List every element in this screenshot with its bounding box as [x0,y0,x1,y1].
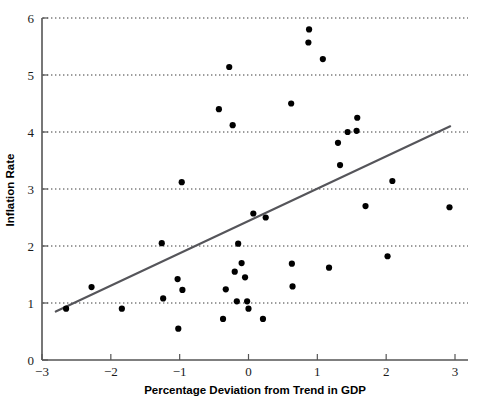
data-point-23 [263,214,269,220]
x-axis-title: Percentage Deviation from Trend in GDP [144,384,366,396]
data-point-32 [337,162,343,168]
data-point-21 [250,210,256,216]
data-point-25 [289,261,295,267]
x-tick-label-5: 2 [383,364,390,379]
data-point-18 [242,274,248,280]
x-tick-label-0: −3 [35,364,49,379]
data-point-0 [63,306,69,312]
data-point-31 [335,140,341,146]
data-point-37 [384,253,390,259]
data-point-9 [216,106,222,112]
y-tick-label-2: 2 [28,239,35,254]
x-tick-marks [42,354,455,360]
data-point-33 [345,129,351,135]
data-point-8 [179,287,185,293]
y-tick-label-6: 6 [28,11,35,26]
data-point-19 [244,298,250,304]
x-tick-label-3: 0 [245,364,252,379]
data-point-6 [175,326,181,332]
data-point-29 [320,56,326,62]
y-tick-labels: 0123456 [28,11,35,368]
scatter-plot-figure: −3−2−10123 0123456 Percentage Deviation … [0,0,481,404]
data-point-7 [179,179,185,185]
y-axis-title: Inflation Rate [4,154,16,227]
data-point-11 [223,286,229,292]
data-point-16 [235,241,241,247]
x-tick-label-6: 3 [452,364,459,379]
data-point-1 [88,284,94,290]
data-point-34 [353,128,359,134]
data-point-28 [306,26,312,32]
data-point-24 [288,100,294,106]
trend-line-group [56,126,450,311]
y-tick-label-3: 3 [28,182,35,197]
trend-line [56,126,450,311]
data-point-38 [389,178,395,184]
data-point-14 [232,269,238,275]
x-tick-label-2: −1 [173,364,187,379]
data-point-22 [260,316,266,322]
data-point-4 [160,295,166,301]
y-tick-label-4: 4 [28,125,35,140]
y-tick-label-5: 5 [28,68,35,83]
y-tick-marks [42,18,48,360]
data-point-10 [220,316,226,322]
data-point-35 [354,115,360,121]
data-point-27 [305,39,311,45]
x-tick-label-1: −2 [104,364,118,379]
data-point-26 [289,283,295,289]
data-point-20 [245,306,251,312]
data-point-13 [230,122,236,128]
y-tick-label-1: 1 [28,296,35,311]
data-point-15 [234,298,240,304]
y-tick-label-0: 0 [28,353,35,368]
data-point-39 [446,204,452,210]
data-point-36 [362,203,368,209]
data-points-group [63,26,453,331]
data-point-5 [175,276,181,282]
chart-canvas: −3−2−10123 0123456 Percentage Deviation … [0,0,481,404]
data-point-30 [326,265,332,271]
data-point-12 [226,64,232,70]
data-point-2 [119,306,125,312]
x-tick-label-4: 1 [314,364,321,379]
gridlines [43,18,468,303]
data-point-3 [159,240,165,246]
x-tick-labels: −3−2−10123 [35,364,458,379]
data-point-17 [239,260,245,266]
